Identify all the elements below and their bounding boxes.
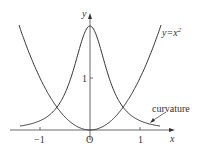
origin-label: O [86, 134, 93, 145]
x-axis-arrow [169, 128, 175, 132]
chart: y x O −1 1 1 y=x2 curvature [0, 0, 203, 152]
y-axis-arrow [88, 13, 92, 19]
curvature-label: curvature [152, 103, 190, 114]
tick-label-y1: 1 [82, 73, 87, 84]
x-axis-label: x [169, 133, 175, 144]
parabola-label: y=x2 [161, 26, 182, 38]
y-axis-label: y [81, 8, 87, 19]
tick-label-neg1: −1 [34, 134, 45, 145]
curvature-leader-arrow [150, 118, 155, 123]
tick-label-1: 1 [138, 134, 143, 145]
